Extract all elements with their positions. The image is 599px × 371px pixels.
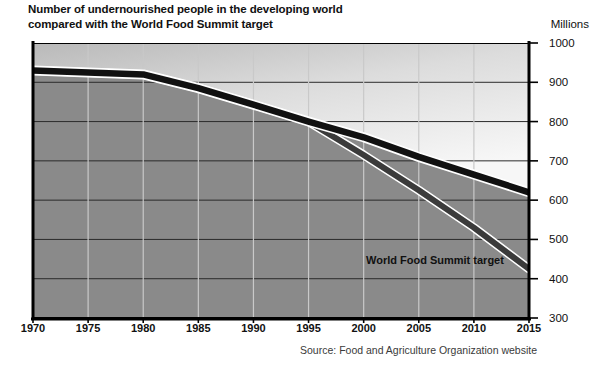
x-tick-label-2010: 2010	[462, 322, 486, 334]
plot-area	[33, 43, 529, 318]
x-tick-label-2000: 2000	[351, 322, 375, 334]
chart-plot-svg	[33, 43, 529, 318]
series-annotation-target: World Food Summit target	[366, 254, 504, 266]
y-tick-label-1000: 1000	[549, 37, 575, 49]
y-axis-tick-marks	[529, 43, 538, 318]
x-axis-tick-labels: 1970197519801985199019952000200520102015	[0, 322, 599, 342]
y-tick-label-700: 700	[549, 155, 568, 167]
x-tick-label-1980: 1980	[131, 322, 155, 334]
y-tick-label-600: 600	[549, 194, 568, 206]
y-tick-label-400: 400	[549, 273, 568, 285]
y-axis-unit-label: Millions	[551, 18, 589, 30]
x-tick-label-2005: 2005	[407, 322, 431, 334]
source-note: Source: Food and Agriculture Organizatio…	[300, 344, 537, 356]
y-tick-label-900: 900	[549, 76, 568, 88]
x-tick-label-1990: 1990	[241, 322, 265, 334]
x-tick-label-1970: 1970	[21, 322, 45, 334]
x-tick-label-1985: 1985	[186, 322, 210, 334]
x-tick-label-2015: 2015	[517, 322, 541, 334]
page-title: Number of undernourished people in the d…	[28, 2, 448, 32]
x-tick-label-1995: 1995	[296, 322, 320, 334]
chart-title-line-1: Number of undernourished people in the d…	[28, 2, 448, 17]
x-tick-label-1975: 1975	[76, 322, 100, 334]
y-tick-label-500: 500	[549, 233, 568, 245]
chart-title-line-2: compared with the World Food Summit targ…	[28, 17, 448, 32]
y-tick-label-800: 800	[549, 116, 568, 128]
chart-figure: Number of undernourished people in the d…	[0, 0, 599, 371]
